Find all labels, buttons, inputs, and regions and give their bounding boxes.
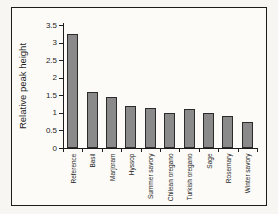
y-tick-label: 2.5 (35, 56, 57, 65)
x-category-label: Basil (88, 153, 97, 207)
x-tick (199, 148, 200, 152)
x-category-label: Winter savory (243, 153, 252, 207)
bar (222, 116, 233, 148)
x-category-label: Marjoram (107, 153, 116, 207)
x-category-label: Rosemary (223, 153, 232, 207)
bar-chart: Relative peak height 00.511.522.533.5Ref… (0, 0, 278, 214)
x-tick (141, 148, 142, 152)
x-tick (63, 148, 64, 152)
bar (242, 122, 253, 148)
x-tick (179, 148, 180, 152)
y-tick-label: 0 (35, 144, 57, 153)
bar (184, 109, 195, 148)
bar (125, 106, 136, 148)
x-tick (238, 148, 239, 152)
x-category-label: Chilean oregano (165, 153, 174, 207)
x-category-label: Turkish oregano (185, 153, 194, 207)
y-tick (59, 130, 63, 131)
y-tick-label: 1 (35, 108, 57, 117)
x-tick (160, 148, 161, 152)
y-tick-label: 2 (35, 73, 57, 82)
bar (106, 97, 117, 148)
y-tick-label: 3.5 (35, 21, 57, 30)
y-tick (59, 113, 63, 114)
y-axis-title: Relative peak height (17, 24, 29, 148)
x-tick (121, 148, 122, 152)
x-tick (257, 148, 258, 152)
page-background: Relative peak height 00.511.522.533.5Ref… (0, 0, 278, 214)
x-category-label: Sage (204, 153, 213, 207)
x-category-label: Summer savory (146, 153, 155, 207)
y-tick (59, 95, 63, 96)
bar (145, 108, 156, 148)
bar (67, 34, 78, 148)
y-tick (59, 25, 63, 26)
bar (164, 113, 175, 148)
y-tick (59, 43, 63, 44)
bar (203, 113, 214, 148)
x-category-label: Hyssop (126, 153, 135, 207)
y-axis-line (63, 23, 64, 149)
x-category-label: Reference (68, 153, 77, 207)
y-tick (59, 78, 63, 79)
y-tick-label: 3 (35, 38, 57, 47)
y-tick (59, 60, 63, 61)
x-tick (218, 148, 219, 152)
x-tick (82, 148, 83, 152)
bar (87, 92, 98, 148)
x-tick (102, 148, 103, 152)
y-tick-label: 1.5 (35, 91, 57, 100)
y-tick-label: 0.5 (35, 126, 57, 135)
